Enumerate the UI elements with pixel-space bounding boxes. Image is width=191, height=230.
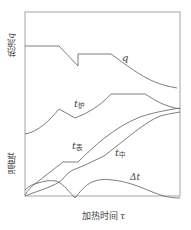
label-t-center-sub: 中 (119, 151, 126, 159)
x-axis-label: 加热时间τ (82, 209, 125, 222)
curve-t-center (25, 112, 180, 196)
label-delta-t-symbol: Δt (130, 172, 140, 182)
label-delta-t: Δt (130, 172, 140, 182)
x-label-text: 加热时间 (82, 211, 118, 221)
label-t-surface: t表 (72, 140, 83, 152)
heating-diagram (0, 0, 191, 230)
y-top-label-symbol: q (6, 33, 16, 39)
curve-q (25, 46, 177, 88)
label-q: q (122, 52, 128, 63)
plot-frame (25, 12, 180, 196)
label-t-furnace-sub: 炉 (78, 102, 85, 110)
label-t-center: t中 (115, 147, 126, 159)
y-bottom-label-symbol: t (6, 152, 16, 156)
y-bottom-label-text: 温度 (6, 156, 16, 174)
y-axis-label-temperature: 温度t (4, 152, 17, 174)
y-axis-label-heat-flux: 热流q (4, 33, 17, 57)
curve-t-furnace (25, 94, 180, 134)
x-label-symbol: τ (120, 211, 125, 221)
curve-delta-t (25, 179, 180, 198)
label-t-surface-sub: 表 (76, 144, 83, 152)
label-q-symbol: q (122, 52, 128, 63)
y-top-label-text: 热流 (6, 39, 16, 57)
label-t-furnace: t炉 (74, 98, 85, 110)
